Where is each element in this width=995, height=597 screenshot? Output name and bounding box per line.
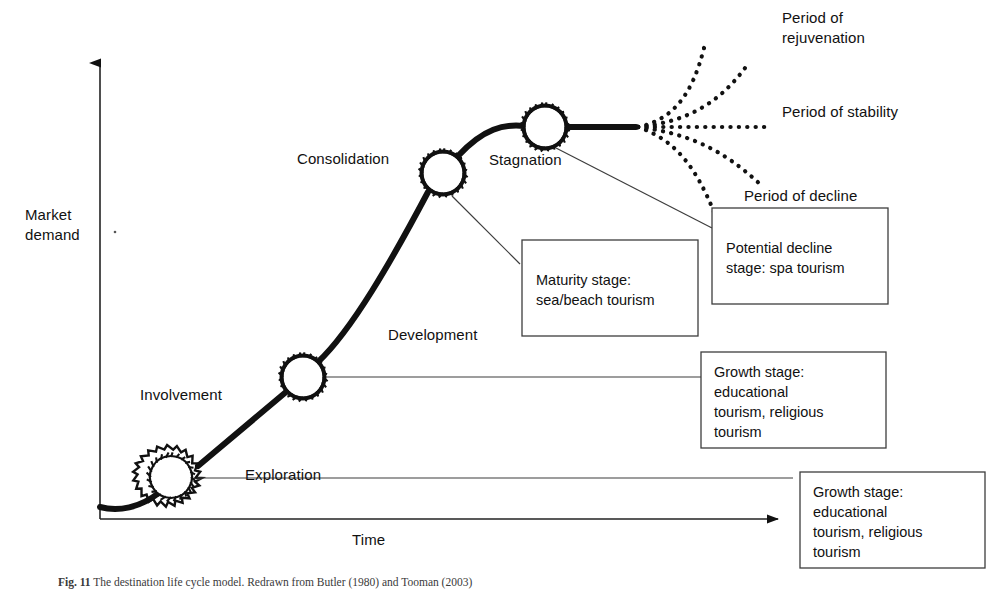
callout-text-growth-upper: Growth stage: educational tourism, relig… [714,362,884,442]
stage-label-stagnation: Stagnation [489,150,562,170]
node-stagnation-group [522,104,569,151]
callout-text-growth-lower: Growth stage: educational tourism, relig… [813,482,983,562]
node-consolidation-group [420,150,467,197]
node-involvement-group [280,354,327,401]
fan-decline-lower [638,127,714,212]
fan-rejuvenation-upper [638,48,704,127]
stage-label-consolidation: Consolidation [297,149,389,169]
y-axis-label: Market demand [25,205,105,245]
x-axis-label: Time [352,530,385,550]
axis-speck [114,231,117,234]
figure-caption-text: The destination life cycle model. Redraw… [91,576,473,588]
figure-caption-label: Fig. 11 [58,576,91,588]
callout-text-maturity: Maturity stage: sea/beach tourism [536,270,694,310]
fan-decline-upper [638,127,762,186]
stage-label-exploration: Exploration [245,465,321,485]
leader-stagnation [556,148,712,228]
period-label-stability: Period of stability [782,102,898,122]
figure-caption: Fig. 11 The destination life cycle model… [58,575,958,597]
leader-consolidation [452,196,520,264]
period-label-decline: Period of decline [744,186,857,206]
stage-label-involvement: Involvement [140,385,222,405]
callout-text-potential-decline: Potential decline stage: spa tourism [726,238,886,278]
figure-root: Market demand Time Exploration Involveme… [0,0,995,597]
stage-label-development: Development [388,325,477,345]
period-label-rejuvenation: Period of rejuvenation [782,8,865,48]
fan-rejuvenation-lower [638,64,748,127]
